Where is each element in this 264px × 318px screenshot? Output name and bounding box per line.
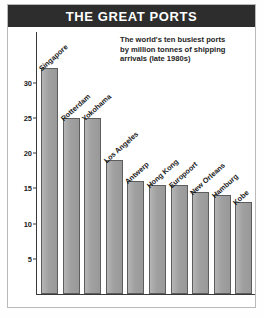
bar bbox=[106, 160, 123, 294]
screenshot-root: THE GREAT PORTS The world's ten busiest … bbox=[0, 0, 264, 318]
chart-plot-area: 51015202530 SingaporeRotterdamYokohamaLo… bbox=[8, 28, 255, 308]
bar bbox=[84, 118, 101, 294]
y-axis-tick-label: 5 bbox=[12, 254, 32, 263]
bar bbox=[192, 192, 209, 294]
bar bbox=[63, 118, 80, 294]
bar bbox=[149, 185, 166, 294]
y-axis-tick-label: 10 bbox=[12, 219, 32, 228]
bar bbox=[127, 181, 144, 294]
y-axis-tick-label: 20 bbox=[12, 149, 32, 158]
x-axis-line bbox=[36, 294, 255, 295]
bar bbox=[214, 195, 231, 294]
y-axis-tick-label: 25 bbox=[12, 113, 32, 122]
y-axis-tick-label: 15 bbox=[12, 184, 32, 193]
bar bbox=[171, 185, 188, 294]
chart-title-bar: THE GREAT PORTS bbox=[8, 5, 255, 27]
bar bbox=[41, 68, 58, 294]
page-title: THE GREAT PORTS bbox=[66, 9, 198, 24]
y-axis-tick-label: 30 bbox=[12, 78, 32, 87]
bar bbox=[235, 202, 252, 294]
